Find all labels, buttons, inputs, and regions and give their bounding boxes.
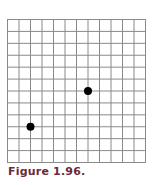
data-point (84, 87, 92, 95)
data-point (27, 123, 35, 131)
figure-caption: Figure 1.96. (8, 165, 85, 178)
coordinate-grid (7, 19, 146, 163)
grid-plot (7, 19, 146, 163)
